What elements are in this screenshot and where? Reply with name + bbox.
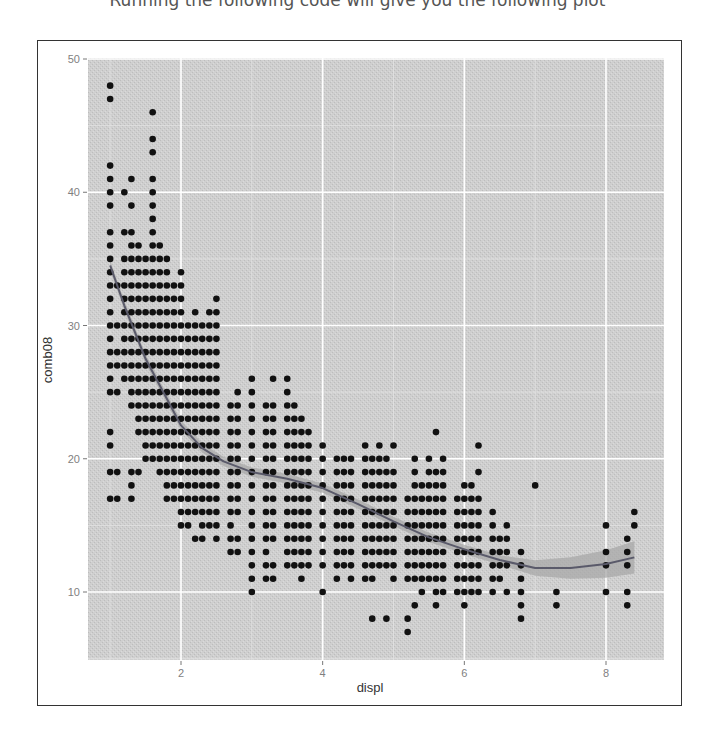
y-tick-label: 50 xyxy=(68,53,80,65)
x-tick-label: 4 xyxy=(320,667,326,679)
x-axis-title: displ xyxy=(357,680,384,695)
y-tick-label: 20 xyxy=(68,453,80,465)
y-axis: 1020304050 xyxy=(68,53,87,598)
y-tick-label: 10 xyxy=(68,586,80,598)
x-tick-label: 6 xyxy=(461,667,467,679)
y-axis-title: comb08 xyxy=(40,337,55,383)
x-axis: 2468 xyxy=(178,661,609,679)
x-tick-label: 8 xyxy=(603,667,609,679)
x-tick-label: 2 xyxy=(178,667,184,679)
y-tick-label: 40 xyxy=(68,186,80,198)
y-tick-label: 30 xyxy=(68,320,80,332)
scatter-plot: 2468 1020304050 displ comb08 xyxy=(0,0,715,740)
